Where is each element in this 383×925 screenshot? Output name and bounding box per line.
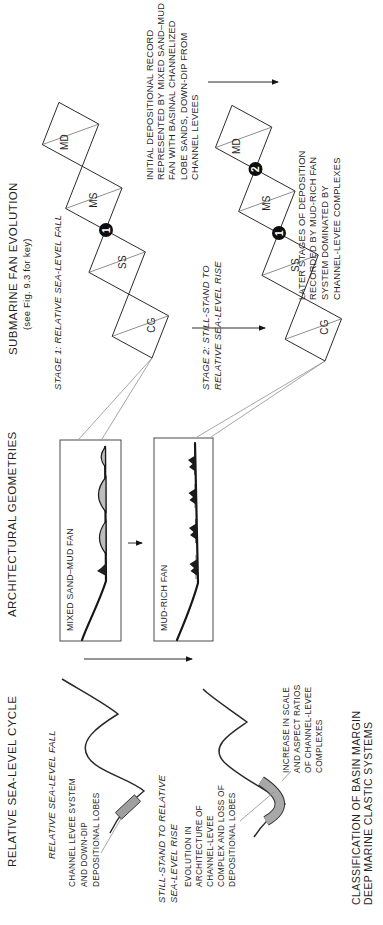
column-title-architecture: ARCHITECTURAL GEOMETRIES — [6, 431, 18, 617]
leader-fan2-to-box2 — [211, 361, 325, 437]
stage1-note: INITIAL DEPOSITIONAL RECORD REPRESENTED … — [145, 3, 200, 180]
stage2-annotation: EVOLUTION IN ARCHITECTURE OF CHANNEL-LEV… — [183, 785, 237, 887]
figure-page: RELATIVE SEA-LEVEL CYCLE RELATIVE SEA-LE… — [0, 0, 383, 925]
leader-fan1-to-box1 — [79, 358, 152, 439]
note-line: INITIAL DEPOSITIONAL RECORD — [145, 30, 155, 180]
caption-line2: DEEP MARINE CLASTIC SYSTEMS — [362, 722, 374, 905]
figure-canvas: RELATIVE SEA-LEVEL CYCLE RELATIVE SEA-LE… — [0, 0, 383, 925]
note-line: REPRESENTED BY MIXED SAND–MUD — [156, 3, 166, 180]
facies-label-cg: CG — [319, 319, 330, 334]
annotation-line: CHANNEL-LEVEE — [205, 815, 215, 887]
stage2-sea-level-label-line1: STILL-STAND TO RELATIVE — [156, 774, 167, 903]
annotation-line: ARCHITECTURE OF — [194, 805, 204, 887]
facies-label-cg: CG — [146, 317, 157, 332]
note-line: CHANNEL-LEVEE COMPLEXES — [332, 157, 342, 300]
annotation-line: COMPLEX AND LOSS OF — [216, 785, 226, 887]
facies-label-md: MD — [59, 134, 70, 150]
stage2-caption-line1: STAGE 2: STILL-STAND TO — [200, 265, 211, 390]
caption-line1: CLASSIFICATION OF BASIN MARGIN — [350, 711, 362, 905]
stage-badge-1: 1 — [274, 230, 285, 236]
facies-label-ms: MS — [88, 192, 99, 208]
leader-marker1-to-annotation — [101, 817, 122, 853]
channel-levee-marker-stage1 — [115, 795, 140, 819]
column-title-sea-level: RELATIVE SEA-LEVEL CYCLE — [6, 696, 18, 867]
annotation-line: COMPLEXES — [314, 719, 324, 773]
note-line: LATER STAGES OF DEPOSITION — [297, 151, 307, 301]
stage1-annotation: CHANNEL LEVEE SYSTEM AND DOWN-DIP DEPOSI… — [67, 778, 101, 887]
note-line: SYSTEM DOMINATED BY — [320, 185, 330, 300]
stage1-caption: STAGE 1: RELATIVE SEA-LEVEL FALL — [52, 215, 63, 390]
stage1-sea-level-label: RELATIVE SEA-LEVEL FALL — [46, 730, 57, 859]
mixed-sand-mud-fan-label: MIXED SAND–MUD FAN — [65, 528, 75, 631]
fan-evolution-column: SUBMARINE FAN EVOLUTION (see Fig. 9.3 fo… — [7, 3, 353, 439]
note-line: FAN WITH BASINAL CHANNELIZED — [167, 20, 177, 180]
stage-badge-1: 1 — [101, 227, 112, 233]
stage2-annotation-right: INCREASE IN SCALE AND ASPECT RATIOS OF C… — [281, 684, 324, 773]
note-line: LOBE SANDS, DOWN-DIP FROM — [179, 33, 189, 180]
leader-fan1-to-box1 — [102, 358, 152, 439]
facies-label-md: MD — [231, 138, 242, 154]
sea-level-column: RELATIVE SEA-LEVEL CYCLE RELATIVE SEA-LE… — [6, 659, 324, 903]
annotation-line: CHANNEL LEVEE SYSTEM — [67, 778, 77, 887]
stage2-caption-line2: RELATIVE SEA-LEVEL RISE — [212, 261, 223, 390]
column-title-fan-evolution: SUBMARINE FAN EVOLUTION — [7, 182, 19, 355]
fan-evolution-subtitle: (see Fig. 9.3 for key) — [21, 238, 32, 330]
stage2-sea-level-label-line2: SEA-LEVEL RISE — [168, 823, 179, 903]
architecture-column: ARCHITECTURAL GEOMETRIES MIXED SAND–MUD … — [6, 431, 213, 641]
stage-badge-2: 2 — [250, 166, 261, 172]
annotation-line: AND ASPECT RATIOS — [292, 684, 302, 773]
note-line: RECORDED BY MUD-RICH FAN — [308, 157, 318, 300]
annotation-line: DEPOSITIONAL LOBES — [227, 792, 237, 887]
mud-rich-fan-label: MUD-RICH FAN — [159, 565, 169, 631]
stage2-note: LATER STAGES OF DEPOSITION RECORDED BY M… — [297, 151, 342, 301]
rotated-figure: RELATIVE SEA-LEVEL CYCLE RELATIVE SEA-LE… — [0, 0, 383, 925]
facies-label-ss: SS — [117, 255, 128, 269]
note-line: CHANNEL LEVEES — [190, 94, 200, 180]
figure-caption: CLASSIFICATION OF BASIN MARGIN DEEP MARI… — [350, 711, 374, 905]
facies-label-ms: MS — [261, 195, 272, 211]
annotation-line: INCREASE IN SCALE — [281, 687, 291, 773]
annotation-line: OF CHANNEL-LEVEE — [303, 687, 313, 773]
annotation-line: DEPOSITIONAL LOBES — [91, 792, 101, 887]
annotation-line: EVOLUTION IN — [183, 826, 193, 887]
annotation-line: AND DOWN-DIP — [79, 822, 89, 887]
